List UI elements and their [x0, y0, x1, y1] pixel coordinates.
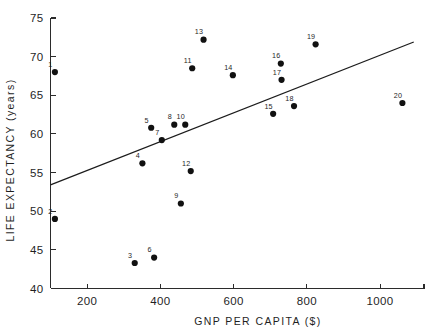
data-point [278, 60, 284, 66]
data-point [278, 77, 284, 83]
data-point-label: 7 [155, 128, 159, 137]
data-point [291, 103, 297, 109]
data-point [52, 216, 58, 222]
data-point-label: 14 [224, 63, 232, 72]
y-tick-label: 60 [30, 128, 44, 140]
x-tick-label: 200 [77, 295, 97, 307]
data-point [159, 137, 165, 143]
y-tick-label: 75 [30, 12, 44, 24]
y-tick-label: 45 [30, 244, 44, 256]
data-point-label: 9 [174, 191, 178, 200]
data-point [132, 260, 138, 266]
y-tick-label: 50 [30, 205, 44, 217]
x-axis-label: GNP PER CAPITA ($) [194, 315, 322, 327]
data-point-label: 10 [177, 112, 185, 121]
data-point [189, 65, 195, 71]
data-point-label: 18 [285, 94, 293, 103]
data-point-label: 2 [48, 207, 52, 216]
data-point [139, 160, 145, 166]
x-tick-label: 400 [150, 295, 170, 307]
data-point [230, 72, 236, 78]
x-axis-ticks: 2004006008001000 [77, 284, 424, 307]
data-point [148, 125, 154, 131]
y-tick-label: 65 [30, 89, 44, 101]
data-point [52, 69, 58, 75]
data-point [151, 254, 157, 260]
data-point-label: 1 [48, 60, 52, 69]
data-point-label: 19 [307, 32, 315, 41]
data-point [313, 41, 319, 47]
data-point [399, 100, 405, 106]
data-point-label: 12 [182, 159, 190, 168]
x-tick-label: 800 [297, 295, 317, 307]
y-tick-label: 70 [30, 51, 44, 63]
data-point-label: 5 [145, 116, 149, 125]
data-point-label: 15 [264, 102, 272, 111]
data-point-label: 6 [148, 245, 152, 254]
scatter-plot-svg: 4045505560657075 2004006008001000 123456… [0, 0, 434, 335]
data-point [188, 168, 194, 174]
data-point-label: 3 [128, 251, 132, 260]
x-tick-label: 1000 [366, 295, 393, 307]
data-point-label: 20 [394, 91, 402, 100]
y-axis-label: LIFE EXPECTANCY (years) [4, 78, 16, 241]
y-tick-label: 40 [30, 283, 44, 295]
data-points-group: 1234567891011121314151617181920 [48, 27, 405, 266]
plot-axes [51, 18, 425, 289]
data-point-label: 17 [273, 68, 281, 77]
data-point [270, 111, 276, 117]
data-point [200, 37, 206, 43]
scatter-chart-figure: 4045505560657075 2004006008001000 123456… [0, 0, 434, 335]
y-axis-ticks: 4045505560657075 [30, 12, 56, 295]
data-point-label: 8 [168, 112, 172, 121]
data-point [171, 122, 177, 128]
data-point [178, 200, 184, 206]
data-point-label: 11 [184, 56, 192, 65]
data-point-label: 13 [195, 27, 203, 36]
data-point [182, 122, 188, 128]
data-point-label: 16 [272, 51, 280, 60]
data-point-label: 4 [136, 151, 140, 160]
y-tick-label: 55 [30, 167, 44, 179]
x-tick-label: 600 [223, 295, 243, 307]
